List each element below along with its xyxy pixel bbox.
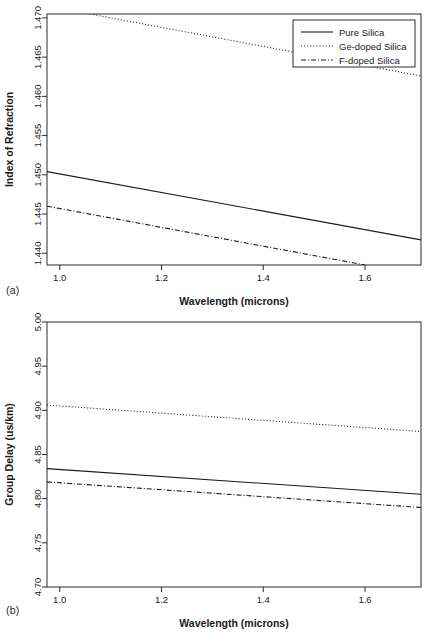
y-tick-label: 1.455 [32,124,43,148]
plot-frame [47,322,421,587]
x-axis-title: Wavelength (microns) [179,295,288,307]
legend-label-1: Ge-doped Silica [339,41,407,52]
x-tick-label: 1.4 [257,272,270,283]
y-tick-label: 1.470 [32,6,43,30]
series-line-solid [47,172,421,240]
y-tick-label: 5.00 [32,313,43,332]
x-tick-label: 1.2 [155,272,168,283]
chart-a-canvas: 1.01.21.41.61.4401.4451.4501.4551.4601.4… [0,0,433,310]
series-group [47,405,421,507]
figure-container: 1.01.21.41.61.4401.4451.4501.4551.4601.4… [0,0,433,633]
chart-panel-b: 1.01.21.41.64.704.754.804.854.904.955.00… [0,310,433,633]
y-axis-title: Index of Refraction [3,92,15,187]
series-line-dotted [47,405,421,432]
y-tick-label: 4.95 [32,357,43,376]
chart-panel-a: 1.01.21.41.61.4401.4451.4501.4551.4601.4… [0,0,433,310]
y-tick-label: 1.450 [32,163,43,187]
x-tick-label: 1.2 [155,594,168,605]
series-line-dashdot [47,482,421,508]
y-tick-label: 1.465 [32,45,43,69]
legend-label-2: F-doped Silica [339,55,400,66]
y-tick-label: 4.90 [32,401,43,420]
x-axis-title: Wavelength (microns) [179,617,288,629]
legend-label-0: Pure Silica [339,27,385,38]
x-tick-label: 1.0 [53,272,66,283]
series-line-dashdot [47,206,365,265]
y-axis-title: Group Delay (us/km) [3,403,15,506]
y-tick-label: 4.85 [32,445,43,464]
y-tick-label: 4.75 [32,534,43,553]
y-tick-label: 4.70 [32,578,43,597]
x-tick-label: 1.6 [358,272,371,283]
y-tick-label: 1.445 [32,202,43,226]
y-tick-label: 4.80 [32,489,43,508]
chart-b-canvas: 1.01.21.41.64.704.754.804.854.904.955.00… [0,310,433,633]
panel-label-b: (b) [6,604,19,616]
x-tick-label: 1.4 [257,594,270,605]
y-tick-label: 1.440 [32,241,43,265]
series-line-solid [47,469,421,495]
x-tick-label: 1.6 [358,594,371,605]
y-tick-label: 1.460 [32,84,43,108]
x-tick-label: 1.0 [53,594,66,605]
panel-label-a: (a) [6,284,19,296]
